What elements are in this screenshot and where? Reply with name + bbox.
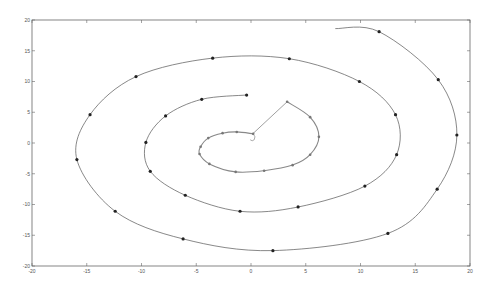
x-tick-label: -15 bbox=[83, 268, 90, 274]
data-point-marker bbox=[88, 113, 91, 116]
data-point-marker bbox=[211, 57, 214, 60]
y-tick-label: 10 bbox=[24, 78, 30, 84]
data-point-marker bbox=[198, 153, 201, 156]
data-point-marker bbox=[288, 57, 291, 60]
x-tick-label: -5 bbox=[194, 268, 199, 274]
data-point-marker bbox=[437, 78, 440, 81]
data-point-marker bbox=[386, 232, 389, 235]
data-point-marker bbox=[149, 170, 152, 173]
x-tick-label: -10 bbox=[138, 268, 145, 274]
data-point-marker bbox=[164, 114, 167, 117]
data-point-marker bbox=[134, 75, 137, 78]
data-point-marker bbox=[184, 194, 187, 197]
data-point-marker bbox=[455, 133, 458, 136]
x-tick-label: 10 bbox=[358, 268, 364, 274]
data-point-marker bbox=[358, 80, 361, 83]
x-tick-label: 20 bbox=[467, 268, 473, 274]
data-point-marker bbox=[144, 141, 147, 144]
data-point-marker bbox=[200, 98, 203, 101]
spiral-chart: -20-15-10-505101520 -20-15-10-505101520 bbox=[0, 0, 496, 290]
data-point-marker bbox=[208, 163, 211, 166]
data-point-marker bbox=[318, 136, 321, 139]
data-point-marker bbox=[309, 153, 312, 156]
x-tick-label: 5 bbox=[304, 268, 307, 274]
y-tick-label: 20 bbox=[24, 17, 30, 23]
y-tick-label: 0 bbox=[27, 140, 30, 146]
data-point-marker bbox=[182, 237, 185, 240]
data-point-marker bbox=[395, 153, 398, 156]
data-point-marker bbox=[263, 169, 266, 172]
data-point-marker bbox=[271, 249, 274, 252]
data-point-marker bbox=[238, 210, 241, 213]
y-tick-label: -15 bbox=[23, 232, 30, 238]
data-point-marker bbox=[291, 164, 294, 167]
data-point-marker bbox=[207, 137, 210, 140]
data-point-marker bbox=[114, 210, 117, 213]
data-point-marker bbox=[363, 184, 366, 187]
data-point-marker bbox=[296, 205, 299, 208]
data-point-marker bbox=[75, 158, 78, 161]
y-tick-label: 5 bbox=[27, 109, 30, 115]
data-point-marker bbox=[245, 93, 248, 96]
plot-background bbox=[0, 0, 496, 290]
data-point-marker bbox=[199, 145, 202, 148]
x-tick-label: -20 bbox=[28, 268, 35, 274]
y-tick-label: -20 bbox=[23, 263, 30, 269]
data-point-marker bbox=[436, 188, 439, 191]
data-point-marker bbox=[309, 116, 312, 119]
y-tick-label: 15 bbox=[24, 48, 30, 54]
data-point-marker bbox=[378, 30, 381, 33]
data-point-marker bbox=[221, 132, 224, 135]
data-point-marker bbox=[235, 131, 238, 134]
data-point-marker bbox=[394, 113, 397, 116]
x-tick-label: 15 bbox=[412, 268, 418, 274]
x-tick-label: 0 bbox=[250, 268, 253, 274]
y-tick-label: -10 bbox=[23, 201, 30, 207]
data-point-marker bbox=[234, 171, 237, 174]
y-tick-label: -5 bbox=[26, 171, 31, 177]
